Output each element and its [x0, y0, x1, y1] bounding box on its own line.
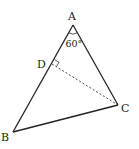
side-ca — [73, 25, 118, 105]
label-c: C — [121, 102, 129, 115]
side-bc — [13, 105, 118, 132]
right-angle-mark — [55, 60, 59, 67]
label-a: A — [67, 10, 77, 23]
label-d: D — [37, 58, 46, 71]
label-b: B — [1, 131, 9, 144]
angle-arc-a — [69, 33, 78, 34]
side-ab — [13, 25, 73, 132]
dashed-segment-dc — [52, 64, 118, 105]
label-angle-60: 60° — [66, 38, 83, 49]
triangle-diagram: A 60° D C B — [0, 0, 139, 149]
